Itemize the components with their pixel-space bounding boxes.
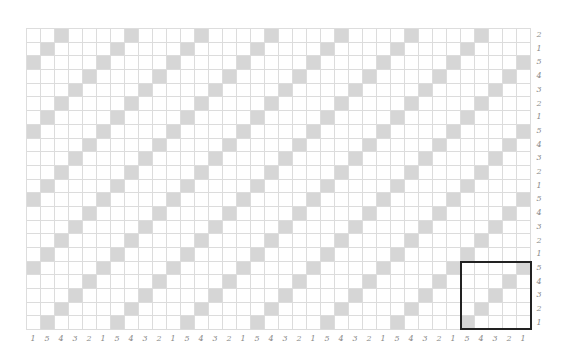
grid-cell <box>195 289 209 303</box>
grid-cell <box>41 152 55 166</box>
grid-cell <box>265 303 279 317</box>
grid-cell <box>167 152 181 166</box>
grid-cell <box>195 70 209 84</box>
grid-cell <box>377 84 391 98</box>
grid-cell <box>139 56 153 70</box>
grid-cell <box>307 152 321 166</box>
grid-cell <box>377 275 391 289</box>
grid-cell <box>377 111 391 125</box>
grid-cell <box>279 29 293 43</box>
grid-cell <box>461 152 475 166</box>
grid-cell <box>391 193 405 207</box>
grid-cell <box>139 43 153 57</box>
grid-cell <box>335 234 349 248</box>
grid-cell <box>307 303 321 317</box>
grid-cell <box>41 166 55 180</box>
grid-cell <box>363 316 377 330</box>
grid-cell <box>321 248 335 262</box>
grid-cell <box>517 207 531 221</box>
grid-cell <box>27 180 41 194</box>
grid-cell <box>83 97 97 111</box>
grid-cell <box>237 248 251 262</box>
grid-cell <box>237 289 251 303</box>
grid-cell <box>181 29 195 43</box>
grid-cell <box>293 180 307 194</box>
grid-cell <box>475 97 489 111</box>
grid-cell <box>69 56 83 70</box>
grid-cell <box>391 125 405 139</box>
grid-cell <box>517 84 531 98</box>
column-label: 5 <box>390 334 404 343</box>
grid-cell <box>55 289 69 303</box>
grid-cell <box>167 221 181 235</box>
grid-cell <box>517 125 531 139</box>
grid-cell <box>321 234 335 248</box>
grid-cell <box>167 43 181 57</box>
grid-cell <box>517 97 531 111</box>
grid-cell <box>419 139 433 153</box>
row-label: 5 <box>534 263 544 272</box>
grid-cell <box>111 139 125 153</box>
grid-cell <box>251 193 265 207</box>
grid-cell <box>55 152 69 166</box>
grid-cell <box>209 139 223 153</box>
grid-cell <box>125 316 139 330</box>
grid-cell <box>517 248 531 262</box>
grid-cell <box>405 193 419 207</box>
grid-cell <box>167 97 181 111</box>
row-label: 2 <box>534 167 544 176</box>
grid-cell <box>517 139 531 153</box>
grid-cell <box>293 152 307 166</box>
grid-cell <box>69 166 83 180</box>
grid-cell <box>503 70 517 84</box>
grid-cell <box>41 111 55 125</box>
grid-cell <box>139 303 153 317</box>
grid-cell <box>307 316 321 330</box>
grid-cell <box>405 303 419 317</box>
grid-cell <box>363 207 377 221</box>
grid-cell <box>27 234 41 248</box>
grid-cell <box>447 221 461 235</box>
grid-cell <box>41 234 55 248</box>
grid-cell <box>321 180 335 194</box>
grid-cell <box>503 152 517 166</box>
grid-cell <box>517 180 531 194</box>
grid-cell <box>489 29 503 43</box>
grid-cell <box>153 275 167 289</box>
grid-cell <box>125 248 139 262</box>
grid-cell <box>125 193 139 207</box>
grid-cell <box>83 111 97 125</box>
grid-cell <box>503 43 517 57</box>
grid-cell <box>125 70 139 84</box>
grid-cell <box>83 262 97 276</box>
row-label: 1 <box>534 44 544 53</box>
grid-cell <box>251 234 265 248</box>
grid-cell <box>209 275 223 289</box>
grid-cell <box>153 289 167 303</box>
grid-cell <box>237 152 251 166</box>
grid-cell <box>27 289 41 303</box>
grid-cell <box>153 207 167 221</box>
grid-cell <box>475 234 489 248</box>
grid-cell <box>503 139 517 153</box>
grid-cell <box>167 248 181 262</box>
grid-cell <box>447 234 461 248</box>
grid-cell <box>503 221 517 235</box>
grid-cell <box>335 56 349 70</box>
grid-cell <box>55 193 69 207</box>
grid-cell <box>41 139 55 153</box>
grid-cell <box>181 56 195 70</box>
grid-cell <box>433 43 447 57</box>
grid-cell <box>307 275 321 289</box>
grid-cell <box>265 166 279 180</box>
grid-cell <box>265 97 279 111</box>
grid-cell <box>139 316 153 330</box>
grid-cell <box>377 125 391 139</box>
grid-cell <box>293 97 307 111</box>
grid-cell <box>391 70 405 84</box>
grid-cell <box>433 139 447 153</box>
column-label: 3 <box>348 334 362 343</box>
grid-cell <box>209 289 223 303</box>
grid-cell <box>209 234 223 248</box>
grid-cell <box>363 56 377 70</box>
